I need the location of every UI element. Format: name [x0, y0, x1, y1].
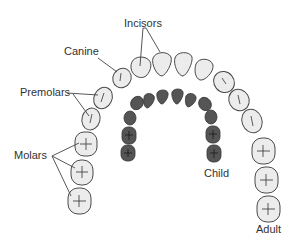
adult-tooth-premolar-left-1: [90, 84, 116, 112]
child-tooth-left-2: [124, 111, 136, 125]
adult-tooth-incisor-2: [153, 53, 172, 76]
adult-tooth-incisor-3: [175, 53, 193, 76]
child-tooth-incisor-2: [157, 90, 168, 104]
label-incisors: Incisors: [124, 18, 162, 29]
adult-incisors: [131, 53, 213, 80]
premolars-leader-2: [73, 94, 89, 116]
molars-leader-3: [52, 156, 71, 196]
canine-leader: [98, 58, 117, 72]
label-canine: Canine: [64, 46, 99, 57]
child-tooth-left-1: [128, 94, 146, 112]
child-tooth-incisor-4: [185, 93, 196, 107]
child-tooth-marks: [124, 130, 218, 158]
label-molars: Molars: [14, 150, 47, 161]
child-tooth-incisor-3: [172, 89, 183, 104]
molars-leader-2: [52, 156, 75, 168]
premolars-leader-1: [67, 93, 98, 95]
child-tooth-right-2: [205, 110, 217, 124]
label-adult: Adult: [256, 224, 281, 235]
child-teeth: [121, 89, 221, 162]
adult-tooth-incisor-4: [195, 59, 213, 80]
adult-teeth: [68, 65, 280, 222]
child-tooth-incisor-1: [144, 94, 155, 108]
dental-diagram: [0, 0, 295, 241]
label-child: Child: [204, 168, 229, 179]
label-premolars: Premolars: [20, 87, 70, 98]
